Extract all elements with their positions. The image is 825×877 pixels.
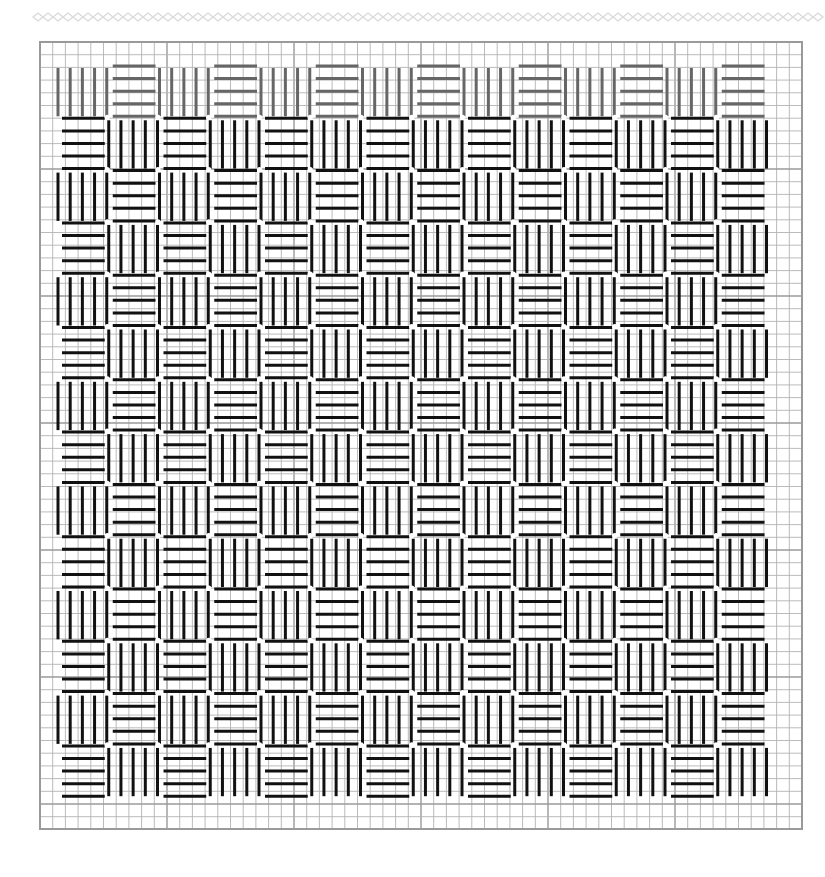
diamond-ornament bbox=[613, 13, 623, 21]
horizontal-stitch-block bbox=[671, 432, 714, 482]
diamond-ornament bbox=[543, 13, 553, 21]
junction-dot bbox=[561, 219, 566, 224]
diamond-ornament bbox=[43, 13, 53, 21]
junction-dot bbox=[206, 481, 211, 486]
junction-dot bbox=[105, 167, 110, 172]
horizontal-stitch-block bbox=[113, 589, 156, 639]
diamond-ornament bbox=[753, 13, 763, 21]
diamond-ornament bbox=[53, 13, 63, 21]
junction-dot bbox=[511, 690, 516, 695]
junction-dot bbox=[511, 376, 516, 381]
junction-dot bbox=[257, 272, 262, 277]
horizontal-stitch-block bbox=[671, 118, 714, 168]
diamond-ornament bbox=[133, 13, 143, 21]
diamond-ornament bbox=[673, 13, 683, 21]
horizontal-stitch-block bbox=[316, 66, 359, 116]
junction-dot bbox=[409, 219, 414, 224]
diamond-ornament bbox=[313, 13, 323, 21]
vertical-stitch-block bbox=[616, 748, 665, 796]
diamond-ornament bbox=[443, 13, 453, 21]
horizontal-stitch-block bbox=[519, 484, 562, 534]
diamond-ornament bbox=[183, 13, 193, 21]
junction-dot bbox=[561, 324, 566, 329]
diamond-ornament bbox=[423, 13, 433, 21]
junction-dot bbox=[663, 742, 668, 747]
junction-dot bbox=[105, 376, 110, 381]
junction-dot bbox=[206, 376, 211, 381]
junction-dot bbox=[257, 429, 262, 434]
junction-dot bbox=[561, 272, 566, 277]
horizontal-stitch-block bbox=[620, 275, 663, 325]
diamond-ornament bbox=[273, 13, 283, 21]
diamond-ornament bbox=[533, 13, 543, 21]
diamond-ornament bbox=[323, 13, 333, 21]
junction-dot bbox=[714, 324, 719, 329]
junction-dot bbox=[460, 115, 465, 120]
diamond-ornament bbox=[793, 13, 803, 21]
junction-dot bbox=[308, 481, 313, 486]
horizontal-stitch-block bbox=[519, 589, 562, 639]
diamond-ornament bbox=[103, 13, 113, 21]
junction-dot bbox=[206, 115, 211, 120]
horizontal-stitch-block bbox=[722, 171, 765, 221]
junction-dot bbox=[105, 272, 110, 277]
horizontal-stitch-block bbox=[316, 484, 359, 534]
junction-dot bbox=[308, 167, 313, 172]
vertical-stitch-block bbox=[515, 120, 564, 168]
junction-dot bbox=[155, 272, 160, 277]
horizontal-stitch-block bbox=[316, 275, 359, 325]
junction-dot bbox=[105, 742, 110, 747]
diamond-ornament bbox=[303, 13, 313, 21]
horizontal-stitch-block bbox=[620, 66, 663, 116]
basketweave-chart bbox=[0, 0, 825, 877]
junction-dot bbox=[358, 376, 363, 381]
diamond-ornament bbox=[723, 13, 733, 21]
horizontal-stitch-block bbox=[62, 641, 105, 691]
junction-dot bbox=[612, 219, 617, 224]
horizontal-stitch-block bbox=[570, 537, 613, 587]
horizontal-stitch-block bbox=[113, 66, 156, 116]
junction-dot bbox=[409, 690, 414, 695]
diamond-ornament bbox=[383, 13, 393, 21]
vertical-stitch-block bbox=[718, 330, 767, 378]
diamond-ornament bbox=[653, 13, 663, 21]
junction-dot bbox=[358, 481, 363, 486]
diamond-ornament bbox=[363, 13, 373, 21]
stitch-grid bbox=[40, 42, 802, 829]
junction-dot bbox=[105, 585, 110, 590]
diamond-ornament bbox=[433, 13, 443, 21]
diamond-ornament bbox=[763, 13, 773, 21]
junction-dot bbox=[663, 585, 668, 590]
junction-dot bbox=[714, 167, 719, 172]
junction-dot bbox=[358, 429, 363, 434]
junction-dot bbox=[460, 219, 465, 224]
diamond-ornament bbox=[193, 13, 203, 21]
junction-dot bbox=[358, 219, 363, 224]
junction-dot bbox=[358, 638, 363, 643]
horizontal-stitch-block bbox=[468, 223, 511, 273]
junction-dot bbox=[663, 429, 668, 434]
diamond-ornament bbox=[353, 13, 363, 21]
diamond-ornament bbox=[343, 13, 353, 21]
junction-dot bbox=[663, 167, 668, 172]
junction-dot bbox=[663, 272, 668, 277]
junction-dot bbox=[561, 167, 566, 172]
junction-dot bbox=[561, 115, 566, 120]
junction-dot bbox=[409, 376, 414, 381]
diamond-ornament bbox=[173, 13, 183, 21]
junction-dot bbox=[612, 481, 617, 486]
junction-dot bbox=[155, 481, 160, 486]
diamond-chain-border bbox=[33, 13, 823, 21]
diamond-ornament bbox=[223, 13, 233, 21]
vertical-stitch-block bbox=[515, 643, 564, 691]
horizontal-stitch-block bbox=[265, 537, 308, 587]
diamond-ornament bbox=[573, 13, 583, 21]
junction-dot bbox=[105, 690, 110, 695]
horizontal-stitch-block bbox=[722, 694, 765, 744]
junction-dot bbox=[358, 585, 363, 590]
junction-dot bbox=[511, 585, 516, 590]
junction-dot bbox=[612, 585, 617, 590]
diamond-ornament bbox=[733, 13, 743, 21]
horizontal-stitch-block bbox=[214, 484, 257, 534]
diamond-ornament bbox=[553, 13, 563, 21]
